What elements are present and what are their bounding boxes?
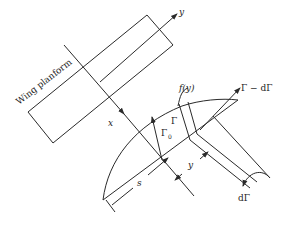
dgamma-label: dΓ bbox=[238, 193, 250, 203]
strip-left bbox=[179, 104, 190, 140]
gamma0-arrow bbox=[152, 117, 162, 160]
gamma-label: Γ bbox=[171, 116, 177, 126]
distribution-label: f(y) bbox=[178, 83, 195, 93]
y-axis bbox=[100, 14, 177, 82]
y-dimension-arrow-2 bbox=[200, 152, 208, 159]
strip-right bbox=[188, 102, 197, 134]
s-label: s bbox=[137, 178, 142, 188]
gamma-minus-label: Γ − dΓ bbox=[241, 83, 273, 93]
trailing-leg-3 bbox=[213, 116, 270, 178]
x-axis bbox=[64, 45, 124, 114]
y-axis-label: y bbox=[178, 7, 185, 17]
s-tick bbox=[106, 200, 115, 212]
gamma0-label: Γ bbox=[161, 128, 167, 138]
trailing-leg-2 bbox=[197, 134, 257, 182]
trailing-leg-1 bbox=[190, 140, 250, 188]
y-dimension-label: y bbox=[187, 160, 194, 170]
x-axis-label: x bbox=[108, 118, 113, 128]
lifting-line-diagram: Wing planform y x f(y) Γ − dΓ Γ Γ 0 s y … bbox=[0, 0, 286, 226]
s-dimension-2 bbox=[148, 158, 168, 175]
x-axis-continued bbox=[124, 114, 194, 196]
gamma0-subscript: 0 bbox=[168, 133, 172, 140]
